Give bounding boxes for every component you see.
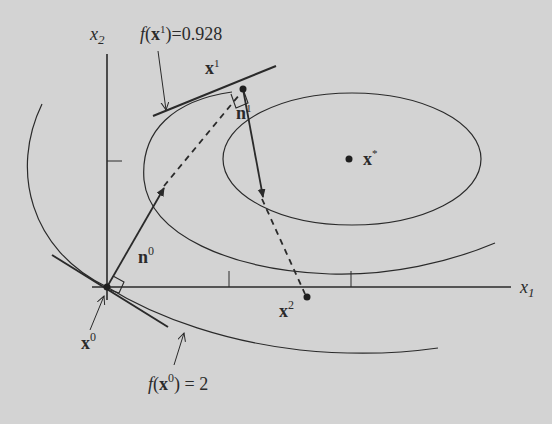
x2-axis-label: x2 (89, 24, 105, 47)
x2-point-label: x2 (279, 298, 294, 321)
point-x2 (304, 294, 311, 301)
outer-contour-f-2 (27, 104, 438, 353)
x1-axis-label: x1 (519, 277, 535, 300)
labels: x2 x1 f(x1)=0.928 x1 n1 x* n0 x2 (81, 23, 535, 395)
middle-contour-f-0928 (144, 92, 495, 274)
n0-arrow (107, 188, 164, 287)
axes (92, 54, 511, 300)
right-angle-markers (110, 89, 248, 293)
search-directions (107, 89, 305, 294)
pointer-f-x0 (174, 333, 184, 365)
point-x0 (104, 284, 111, 291)
x1-point-label: x1 (205, 57, 220, 78)
f-x1-annotation: f(x1)=0.928 (140, 23, 222, 45)
pointer-f-x1 (158, 51, 166, 110)
x0-point-label: x0 (81, 330, 96, 353)
contour-lines (27, 92, 495, 353)
point-x1 (240, 86, 247, 93)
xstar-label: x* (363, 147, 378, 169)
n0-vector-label: n0 (138, 244, 154, 267)
points (104, 86, 353, 301)
tangent-at-x1 (153, 66, 276, 116)
tangent-at-x0 (52, 255, 168, 327)
steepest-descent-diagram: x2 x1 f(x1)=0.928 x1 n1 x* n0 x2 (0, 0, 552, 424)
point-xstar (346, 156, 353, 163)
pointer-x0 (90, 296, 104, 330)
n1-dashed-extension (262, 199, 305, 294)
f-x0-annotation: f(x0) = 2 (148, 371, 208, 395)
